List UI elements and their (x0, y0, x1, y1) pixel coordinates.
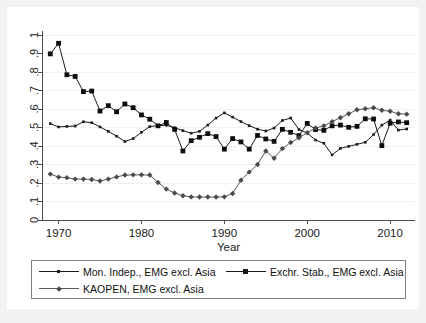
x-tick-label: 1990 (212, 227, 238, 239)
data-point (272, 139, 277, 144)
y-tick-label: .3 (28, 160, 40, 169)
plot-area: 0.1.2.3.4.5.6.7.8.9119701980199020002010… (7, 7, 419, 257)
data-point (355, 124, 360, 129)
data-point (363, 106, 368, 111)
data-point (321, 128, 326, 133)
data-point (48, 51, 53, 56)
y-tick-label: 1 (28, 32, 40, 38)
data-point (205, 194, 210, 199)
data-point (354, 107, 359, 112)
data-point (396, 111, 401, 116)
series-line (50, 108, 406, 197)
data-point (281, 119, 284, 122)
data-point (263, 137, 268, 142)
data-point (205, 131, 210, 136)
data-point (338, 123, 343, 128)
data-point (404, 111, 409, 116)
data-point (215, 117, 218, 120)
series-1 (48, 41, 409, 153)
legend-item-kaopen: KAOPEN, EMG excl. Asia (39, 281, 204, 297)
data-point (49, 122, 52, 125)
data-point (339, 147, 342, 150)
x-tick-label: 2000 (294, 227, 320, 239)
data-point (363, 116, 368, 121)
y-tick-label: .5 (28, 123, 40, 132)
data-point (381, 124, 384, 127)
data-point (114, 109, 119, 114)
y-tick-label: .9 (28, 49, 40, 58)
data-point (338, 115, 343, 120)
data-point (346, 125, 351, 130)
data-point (206, 124, 209, 127)
data-point (273, 127, 276, 130)
data-point (379, 108, 384, 113)
data-point (64, 72, 69, 77)
data-point (356, 143, 359, 146)
data-point (230, 136, 235, 141)
data-point (197, 135, 202, 140)
data-point (347, 145, 350, 148)
data-point (265, 130, 268, 133)
y-tick-label: 0 (28, 217, 40, 223)
data-point (74, 125, 77, 128)
data-point (106, 103, 111, 108)
data-point (156, 123, 161, 128)
data-point (164, 120, 169, 125)
data-point (122, 172, 127, 177)
y-tick-label: .8 (28, 67, 40, 76)
data-point (139, 172, 144, 177)
data-point (314, 139, 317, 142)
y-tick-label: .6 (28, 104, 40, 113)
data-point (107, 130, 110, 133)
data-point (223, 112, 226, 115)
data-point (180, 193, 185, 198)
data-point (139, 113, 144, 118)
data-point (388, 121, 393, 126)
data-point (323, 142, 326, 145)
data-point (289, 117, 292, 120)
data-point (132, 137, 135, 140)
data-point (114, 174, 119, 179)
data-point (131, 105, 136, 110)
data-point (72, 176, 77, 181)
data-point (57, 126, 60, 129)
data-point (189, 138, 194, 143)
figure-canvas: 0.1.2.3.4.5.6.7.8.9119701980199020002010… (0, 0, 426, 323)
data-point (247, 147, 252, 152)
data-point (122, 102, 127, 107)
data-point (280, 127, 285, 132)
data-point (89, 89, 94, 94)
data-point (106, 176, 111, 181)
data-point (214, 134, 219, 139)
data-point (222, 194, 227, 199)
data-point (371, 105, 376, 110)
data-point (182, 129, 185, 132)
legend-label-mon-indep: Mon. Indep., EMG excl. Asia (83, 266, 215, 278)
data-point (255, 133, 260, 138)
series-line (50, 43, 406, 151)
data-point (90, 121, 93, 124)
data-point (66, 125, 69, 128)
data-point (64, 175, 69, 180)
data-point (298, 128, 301, 131)
data-point (172, 127, 177, 132)
data-point (56, 41, 61, 46)
y-tick-label: .2 (28, 178, 40, 187)
data-point (396, 120, 401, 125)
data-point (372, 133, 375, 136)
chart-legend: Mon. Indep., EMG excl. Asia Exchr. Stab.… (31, 260, 406, 299)
data-point (197, 194, 202, 199)
legend-key-mon-indep-icon (39, 266, 79, 278)
data-point (81, 176, 86, 181)
series-2 (48, 105, 410, 200)
legend-label-kaopen: KAOPEN, EMG excl. Asia (83, 283, 204, 295)
x-tick-label: 1970 (46, 227, 72, 239)
data-point (48, 171, 53, 176)
x-tick-label: 1980 (129, 227, 155, 239)
data-point (240, 120, 243, 123)
data-point (222, 147, 227, 152)
series-0 (49, 112, 408, 157)
data-point (239, 140, 244, 145)
data-point (130, 172, 135, 177)
data-point (364, 141, 367, 144)
